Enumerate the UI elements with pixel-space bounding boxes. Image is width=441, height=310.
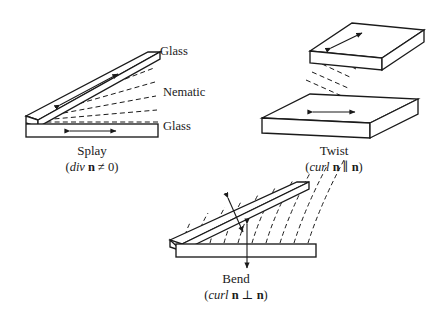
bend-eq-close: ) xyxy=(264,288,268,302)
splay-eq-close: ) xyxy=(114,160,118,174)
twist-mode-equation: (curl n ∥ n) xyxy=(305,161,363,174)
twist-eq-operator: curl xyxy=(309,160,329,174)
splay-bottom-glass-label: Glass xyxy=(163,120,191,133)
twist-mode-title: Twist xyxy=(320,144,349,157)
bend-diagram xyxy=(170,160,344,268)
bend-bottom-glass-plate xyxy=(176,244,316,257)
bend-eq-operator: curl xyxy=(208,288,228,302)
splay-top-glass-plate xyxy=(26,52,160,127)
twist-eq-close: ) xyxy=(359,160,363,174)
splay-mode-title: Splay xyxy=(77,144,107,157)
twist-diagram xyxy=(262,23,424,138)
bend-eq-relation: ⊥ xyxy=(239,288,257,302)
splay-eq-operator: div xyxy=(70,160,85,174)
bend-mode-title: Bend xyxy=(222,272,249,285)
twist-upper-plate xyxy=(310,23,424,70)
figure-canvas: Glass Nematic Glass Splay (div n ≠ 0) Tw… xyxy=(0,0,441,310)
splay-eq-vector: n xyxy=(88,160,95,174)
splay-diagram xyxy=(26,52,160,137)
bend-mode-equation: (curl n ⊥ n) xyxy=(204,289,268,302)
splay-nematic-label: Nematic xyxy=(163,86,205,99)
bend-top-glass-plate xyxy=(170,182,309,251)
twist-eq-relation: ∥ xyxy=(340,160,352,174)
splay-mode-equation: (div n ≠ 0) xyxy=(65,161,118,174)
splay-top-glass-label: Glass xyxy=(160,45,188,58)
deformation-diagram xyxy=(0,0,441,310)
splay-eq-relation: ≠ 0 xyxy=(95,160,114,174)
twist-lower-plate xyxy=(262,94,418,138)
